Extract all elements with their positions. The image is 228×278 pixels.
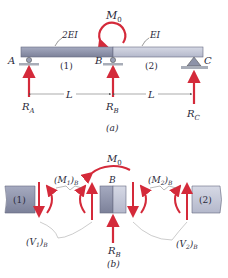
moment-m1-left-arc-icon	[47, 186, 52, 213]
moment-arc-icon	[99, 23, 125, 43]
moment-label: M0	[105, 9, 122, 24]
segment2-rigidity: EI	[149, 30, 161, 40]
moment-m0-arc-icon	[92, 166, 130, 173]
label-b: B	[94, 55, 102, 66]
v1-label: (V1)B	[26, 237, 48, 248]
reaction-c-label: RC	[186, 108, 201, 122]
moment-m2-left-arc-icon	[141, 186, 146, 213]
span1-label: L	[65, 89, 73, 100]
joint-b-left	[100, 186, 113, 213]
segment2-label: (2)	[145, 61, 158, 71]
joint-b-right	[113, 186, 126, 213]
caption-b: (b)	[107, 259, 120, 269]
leader-m1	[56, 186, 82, 190]
pin-triangle-icon	[187, 57, 201, 66]
ground-icon	[19, 63, 39, 66]
roller-icon	[26, 57, 31, 62]
ground-icon	[181, 66, 208, 69]
segment2-label-b: (2)	[199, 195, 212, 205]
reaction-a-label: RA	[21, 101, 35, 115]
ground-icon	[103, 63, 123, 66]
segment1-label-b: (1)	[13, 195, 26, 205]
reaction-rb-label: RB	[107, 245, 121, 259]
moment-m1-right-arc-icon	[80, 186, 85, 213]
label-c: C	[204, 55, 212, 66]
leader-v1	[40, 222, 92, 238]
caption-a: (a)	[106, 123, 119, 133]
leader-v2	[133, 222, 187, 240]
figure-a: M0 2EI EI A B C (1) (2)	[7, 9, 212, 133]
support-b	[103, 57, 123, 65]
m2-label: (M2)B	[148, 175, 173, 186]
leader-m2	[150, 186, 176, 190]
v2-label: (V2)B	[176, 239, 198, 250]
applied-moment-m0: M0	[99, 9, 125, 43]
roller-icon	[110, 57, 115, 62]
joint-b-label: B	[108, 175, 116, 185]
figure-b: M0 (1) (2) B (M1)B (M2)B (V1)B (V2)B	[5, 153, 222, 269]
moment-m2-right-arc-icon	[175, 186, 180, 213]
reaction-b-label: RB	[105, 101, 119, 115]
label-a: A	[7, 55, 15, 66]
beam-diagram: M0 2EI EI A B C (1) (2)	[0, 0, 228, 278]
m1-label: (M1)B	[54, 175, 79, 186]
moment-m0-label: M0	[106, 153, 122, 167]
support-a	[19, 57, 39, 65]
beam-segment-2	[113, 47, 203, 57]
span2-label: L	[147, 89, 155, 100]
segment1-rigidity: 2EI	[61, 30, 78, 40]
segment1-label: (1)	[60, 61, 73, 71]
